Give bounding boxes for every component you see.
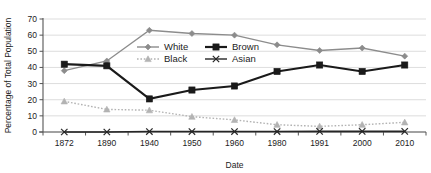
y-tick-label: 70: [28, 14, 38, 24]
y-tick-label: 30: [28, 79, 38, 89]
x-axis-title: Date: [226, 160, 244, 170]
data-point-brown-1950: [189, 87, 195, 93]
x-tick-label: 1960: [225, 138, 244, 148]
data-point-brown-1940: [146, 96, 152, 102]
x-tick-label: 1980: [268, 138, 287, 148]
x-tick-label: 2000: [353, 138, 372, 148]
y-tick-label: 0: [32, 127, 37, 137]
x-tick-label: 1940: [140, 138, 159, 148]
x-tick-label: 1991: [310, 138, 329, 148]
legend-label-white: White: [164, 41, 188, 52]
y-tick-label: 50: [28, 46, 38, 56]
y-axis-title: Percentage of Total Population: [3, 17, 13, 133]
line-chart: 0102030405060701872189019401950196019801…: [0, 0, 431, 173]
data-point-brown-2000: [359, 68, 365, 74]
y-axis-ticks: 010203040506070: [28, 14, 43, 137]
x-tick-label: 1872: [55, 138, 74, 148]
x-tick-label: 2010: [395, 138, 414, 148]
legend-label-asian: Asian: [232, 53, 256, 64]
data-point-brown-2010: [402, 62, 408, 68]
chart-container: 0102030405060701872189019401950196019801…: [0, 0, 431, 173]
x-tick-label: 1950: [182, 138, 201, 148]
legend-label-black: Black: [164, 53, 187, 64]
data-point-brown-1980: [274, 68, 280, 74]
legend-label-brown: Brown: [232, 41, 259, 52]
data-point-brown-1991: [317, 62, 323, 68]
x-axis-ticks: 187218901940195019601980199120002010: [43, 132, 426, 148]
data-point-brown-1872: [61, 61, 67, 67]
data-point-brown-1960: [231, 83, 237, 89]
data-point-brown-1890: [104, 63, 110, 69]
x-tick-label: 1890: [97, 138, 116, 148]
y-tick-label: 60: [28, 30, 38, 40]
y-tick-label: 20: [28, 95, 38, 105]
y-tick-label: 40: [28, 62, 38, 72]
legend-marker-brown: [213, 44, 219, 50]
y-tick-label: 10: [28, 111, 38, 121]
